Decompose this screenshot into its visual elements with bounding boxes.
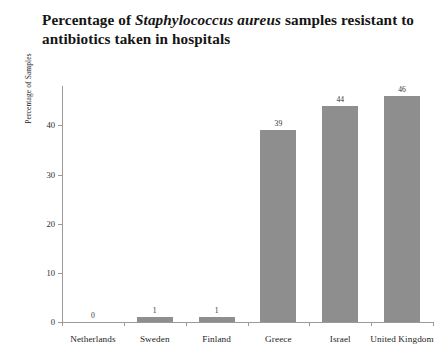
bar-value-label: 0 [91,311,95,320]
y-tick-mark [58,224,63,225]
y-tick-mark [58,273,63,274]
x-tick-mark [371,322,372,326]
bar-value-label: 46 [398,85,406,94]
bar-value-label: 44 [336,95,344,104]
x-axis-category-label: United Kingdom [370,334,433,344]
y-axis-label: Percentage of Samples [24,41,33,137]
y-tick-label: 40 [46,120,55,130]
y-tick-label: 20 [46,219,55,229]
y-axis-line [62,86,63,322]
bar [384,96,420,322]
bar [322,106,358,322]
bar [199,317,235,322]
x-tick-mark [186,322,187,326]
title-segment-post: samples resistant to [281,11,414,28]
bar [137,317,173,322]
y-tick-label: 10 [46,268,55,278]
x-axis-category-label: Israel [330,334,351,344]
x-tick-mark [433,322,434,326]
y-tick-mark [58,125,63,126]
plot-area: 010203040 011394446 NetherlandsSwedenFin… [62,86,433,322]
y-tick-label: 0 [51,317,55,327]
chart-page: Percentage of Staphylococcus aureus samp… [0,0,441,364]
title-segment-italic: Staphylococcus aureus [135,11,281,28]
x-axis-category-label: Netherlands [70,334,116,344]
x-axis-category-label: Finland [202,334,231,344]
x-tick-mark [248,322,249,326]
bar-value-label: 1 [153,306,157,315]
title-segment-pre: Percentage of [42,11,135,28]
bar [260,130,296,322]
x-tick-mark [62,322,63,326]
x-axis-category-label: Sweden [140,334,170,344]
y-tick-mark [58,175,63,176]
x-tick-mark [309,322,310,326]
x-tick-mark [124,322,125,326]
x-axis-category-label: Greece [265,334,292,344]
page-title: Percentage of Staphylococcus aureus samp… [42,10,434,48]
bar-value-label: 39 [275,119,283,128]
y-tick-label: 30 [46,170,55,180]
title-line-2: antibiotics taken in hospitals [42,30,230,47]
bar-value-label: 1 [215,306,219,315]
